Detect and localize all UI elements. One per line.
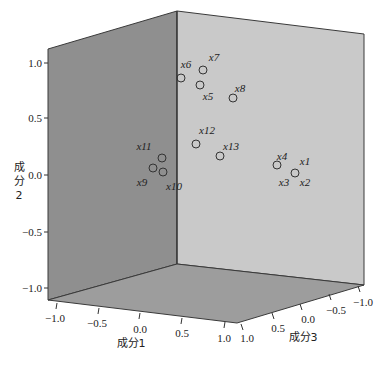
x-tick: −0.5 <box>87 317 107 329</box>
point-label: x7 <box>208 51 220 63</box>
point-label: x3 <box>278 176 290 188</box>
point-label: x12 <box>198 124 215 136</box>
point-label: x1 <box>299 155 310 167</box>
y-tick: −1.0 <box>22 282 42 294</box>
plot-box <box>48 11 364 323</box>
right-wall <box>177 11 364 285</box>
z-tick: −1.0 <box>353 296 373 308</box>
point-label: x5 <box>202 90 214 102</box>
x-tick: −1.0 <box>45 312 65 324</box>
point-label: x13 <box>222 140 239 152</box>
z-tick: 1.0 <box>240 332 254 344</box>
point-label: x4 <box>276 150 288 162</box>
z-tick: −0.5 <box>326 304 346 316</box>
y-axis: 1.0 0.5 0.0 −0.5 −1.0 成 分 2 <box>14 57 49 294</box>
z-tick: 0.0 <box>301 313 315 325</box>
y-axis-title: 分 <box>14 175 25 188</box>
y-tick: −0.5 <box>22 226 42 238</box>
y-axis-title: 成 <box>14 161 25 174</box>
point-label: x2 <box>299 176 311 188</box>
point-label: x6 <box>180 58 192 70</box>
point-label: x10 <box>165 180 182 192</box>
point-label: x11 <box>135 140 151 152</box>
y-tick: 1.0 <box>28 57 42 69</box>
y-tick: 0.5 <box>28 112 42 124</box>
3d-scatter-plot: 1.0 0.5 0.0 −0.5 −1.0 成 分 2 −1.0 −0.5 0.… <box>0 0 386 365</box>
x-tick: 0.0 <box>133 323 147 335</box>
point-label: x9 <box>136 176 148 188</box>
point-label: x8 <box>234 82 246 94</box>
z-axis-title: 成分3 <box>289 331 318 344</box>
x-tick: 0.5 <box>175 327 189 339</box>
y-tick: 0.0 <box>28 169 42 181</box>
x-tick: 1.0 <box>217 332 231 344</box>
z-tick: 0.5 <box>271 322 285 334</box>
x-axis-title: 成分1 <box>117 337 146 350</box>
left-wall <box>48 11 177 300</box>
y-axis-title: 2 <box>16 189 23 202</box>
